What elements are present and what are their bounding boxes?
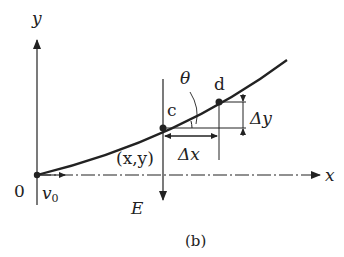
origin-point	[34, 172, 40, 178]
field-label-E: E	[130, 198, 144, 218]
point-c-coords: (x,y)	[116, 148, 154, 168]
point-d-label: d	[214, 74, 225, 94]
figure-caption: (b)	[185, 232, 206, 250]
angle-theta-marker	[190, 92, 197, 128]
delta-y-label: Δy	[249, 108, 272, 128]
origin-label: 0	[14, 181, 25, 201]
delta-x-label: Δx	[177, 144, 200, 164]
diagram-canvas: y x 0 v0 E c d (x,y) θ Δx Δy (b)	[0, 0, 344, 257]
angle-theta-label: θ	[180, 68, 190, 88]
initial-velocity-label: v0	[42, 183, 59, 205]
x-axis-label: x	[325, 165, 335, 185]
y-axis-label: y	[31, 8, 42, 28]
point-c-label: c	[167, 100, 177, 120]
